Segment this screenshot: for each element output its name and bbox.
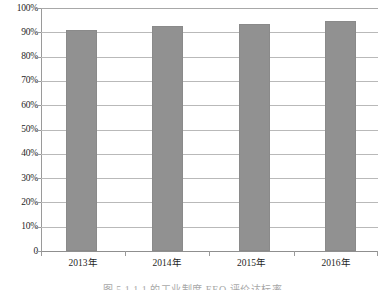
x-axis-label-2015: 2015年 — [209, 258, 294, 269]
x-axis-tick-3 — [294, 251, 295, 256]
y-axis-label-10: 10% — [2, 222, 38, 232]
x-axis-tick-0 — [41, 251, 42, 256]
y-axis-label-0: 0 — [2, 247, 38, 257]
x-axis-label-2016: 2016年 — [294, 258, 378, 269]
figure-caption: 图 5.1.1.1 的工业制度 EEO 评价达标率 — [0, 283, 385, 290]
plot-area — [41, 8, 378, 251]
x-axis-tick-4 — [377, 251, 378, 256]
y-axis-label-60: 60% — [2, 101, 38, 111]
x-axis-tick-1 — [125, 251, 126, 256]
y-axis-label-40: 40% — [2, 149, 38, 159]
x-axis-ticks — [41, 8, 378, 251]
y-axis-label-80: 80% — [2, 52, 38, 62]
x-axis-labels: 2013年 2014年 2015年 2016年 — [41, 258, 378, 274]
x-axis-label-2013: 2013年 — [41, 258, 125, 269]
y-axis-label-50: 50% — [2, 125, 38, 135]
y-axis-labels: 100% 90% 80% 70% 60% 50% 40% 30% 20% 10%… — [0, 0, 38, 290]
x-axis-tick-2 — [209, 251, 210, 256]
x-axis-label-2014: 2014年 — [125, 258, 209, 269]
y-axis-label-30: 30% — [2, 174, 38, 184]
y-axis-label-20: 20% — [2, 198, 38, 208]
bar-chart-figure: 100% 90% 80% 70% 60% 50% 40% 30% 20% 10%… — [0, 0, 385, 290]
y-axis-label-90: 90% — [2, 28, 38, 38]
y-axis-label-100: 100% — [2, 4, 38, 14]
y-axis-label-70: 70% — [2, 76, 38, 86]
